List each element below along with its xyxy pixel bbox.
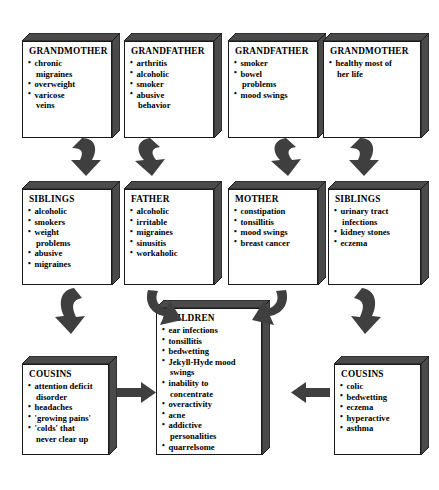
arrow-grandmother-maternal-to-siblings (349, 138, 379, 176)
arrow-layer (0, 0, 439, 490)
arrow-grandmother-paternal-to-siblings (71, 138, 101, 176)
arrow-siblings-maternal-to-cousins-right (351, 288, 381, 334)
arrow-siblings-paternal-to-cousins-left (55, 288, 85, 334)
arrow-grandfather-maternal-to-mother (271, 138, 301, 176)
arrow-cousins-left-to-children (117, 382, 156, 403)
arrow-father-to-children (147, 290, 182, 325)
arrow-cousins-right-to-children (291, 382, 330, 403)
arrow-grandfather-paternal-to-father (135, 138, 165, 176)
family-health-history-diagram: GRANDMOTHER chronicmigrainesoverweightva… (0, 0, 439, 490)
arrow-mother-to-children (252, 290, 287, 325)
